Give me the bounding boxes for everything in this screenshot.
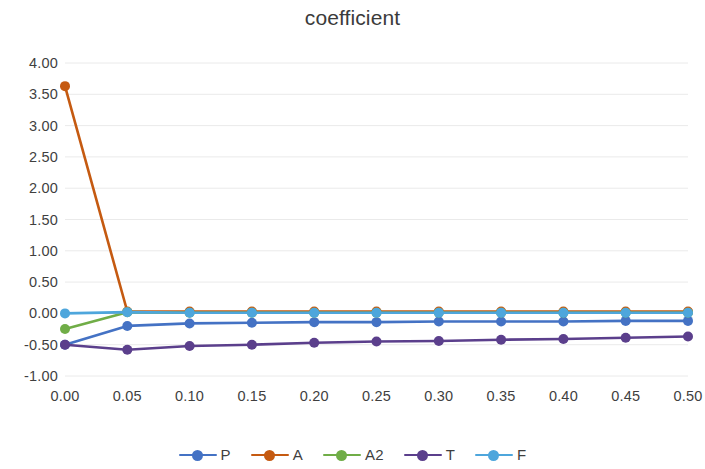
y-axis-tick-label: 0.00	[0, 305, 58, 321]
legend-dot	[488, 450, 499, 461]
legend-item-t[interactable]: T	[404, 446, 455, 463]
y-axis-tick-label: 1.00	[0, 243, 58, 259]
legend-label: T	[446, 446, 455, 463]
legend-item-a[interactable]: A	[251, 446, 303, 463]
plot-area	[65, 63, 688, 376]
data-point-marker	[434, 308, 444, 318]
legend-item-f[interactable]: F	[475, 446, 526, 463]
data-point-marker	[309, 308, 319, 318]
x-axis: 0.000.050.100.150.200.250.300.350.400.45…	[65, 388, 688, 410]
series-t	[60, 332, 693, 355]
data-point-marker	[434, 317, 444, 327]
data-point-marker	[247, 340, 257, 350]
y-axis-tick-label: 1.50	[0, 212, 58, 228]
data-point-marker	[247, 318, 257, 328]
y-axis-tick-label: 2.00	[0, 180, 58, 196]
legend-marker-icon	[475, 448, 513, 462]
legend-item-p[interactable]: P	[179, 446, 231, 463]
data-point-marker	[496, 317, 506, 327]
data-point-marker	[434, 336, 444, 346]
data-point-marker	[558, 308, 568, 318]
y-axis-tick-label: -0.50	[0, 337, 58, 353]
data-point-marker	[60, 340, 70, 350]
chart-legend: PAA2TF	[0, 440, 705, 469]
data-point-marker	[122, 345, 132, 355]
y-axis-tick-label: 3.00	[0, 118, 58, 134]
series-a	[60, 81, 693, 316]
legend-label: P	[221, 446, 231, 463]
data-point-marker	[558, 334, 568, 344]
data-point-marker	[122, 321, 132, 331]
x-axis-tick-label: 0.10	[155, 388, 225, 404]
data-point-marker	[185, 308, 195, 318]
data-point-marker	[122, 307, 132, 317]
legend-dot	[264, 450, 275, 461]
data-point-marker	[60, 324, 70, 334]
legend-dot	[417, 450, 428, 461]
y-axis-tick-label: 3.50	[0, 86, 58, 102]
x-axis-tick-label: 0.05	[92, 388, 162, 404]
legend-marker-icon	[404, 448, 442, 462]
legend-marker-icon	[179, 448, 217, 462]
x-axis-tick-label: 0.30	[404, 388, 474, 404]
x-axis-tick-label: 0.50	[653, 388, 705, 404]
data-point-marker	[309, 317, 319, 327]
y-axis-tick-label: 4.00	[0, 55, 58, 71]
series-layer	[60, 81, 693, 355]
legend-marker-icon	[251, 448, 289, 462]
legend-label: A2	[365, 446, 384, 463]
x-axis-tick-label: 0.15	[217, 388, 287, 404]
x-axis-tick-label: 0.35	[466, 388, 536, 404]
data-point-marker	[60, 81, 70, 91]
data-point-marker	[309, 338, 319, 348]
data-point-marker	[683, 308, 693, 318]
series-f	[60, 307, 693, 318]
chart-title: coefficient	[0, 6, 705, 30]
chart-container: coefficient 4.003.503.002.502.001.501.00…	[0, 0, 705, 469]
data-point-marker	[372, 317, 382, 327]
data-point-marker	[60, 308, 70, 318]
legend-dot	[336, 450, 347, 461]
legend-marker-icon	[323, 448, 361, 462]
x-axis-tick-label: 0.40	[528, 388, 598, 404]
gridlines	[65, 63, 688, 376]
legend-label: A	[293, 446, 303, 463]
y-axis-tick-label: -1.00	[0, 368, 58, 384]
y-axis-tick-label: 2.50	[0, 149, 58, 165]
legend-item-a2[interactable]: A2	[323, 446, 384, 463]
y-axis-tick-label: 0.50	[0, 274, 58, 290]
data-point-marker	[683, 332, 693, 342]
data-point-marker	[558, 317, 568, 327]
data-point-marker	[247, 308, 257, 318]
legend-label: F	[517, 446, 526, 463]
legend-dot	[192, 450, 203, 461]
x-axis-tick-label: 0.25	[342, 388, 412, 404]
plot-svg	[65, 63, 688, 376]
data-point-marker	[185, 341, 195, 351]
data-point-marker	[185, 318, 195, 328]
x-axis-tick-label: 0.45	[591, 388, 661, 404]
y-axis: 4.003.503.002.502.001.501.000.500.00-0.5…	[0, 63, 58, 376]
data-point-marker	[372, 308, 382, 318]
data-point-marker	[621, 308, 631, 318]
x-axis-tick-label: 0.20	[279, 388, 349, 404]
data-point-marker	[621, 333, 631, 343]
data-point-marker	[496, 308, 506, 318]
data-point-marker	[372, 337, 382, 347]
x-axis-tick-label: 0.00	[30, 388, 100, 404]
data-point-marker	[496, 335, 506, 345]
series-line	[65, 86, 688, 311]
